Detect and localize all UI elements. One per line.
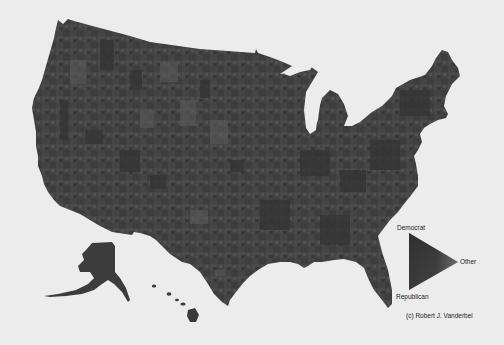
alaska-landmass	[44, 242, 130, 302]
legend-label-republican: Republican	[396, 294, 429, 301]
legend-triangle	[409, 233, 458, 290]
copyright-credit: (c) Robert J. Vanderbei	[406, 313, 473, 320]
hawaii-islands	[152, 284, 199, 322]
legend-label-other: Other	[460, 259, 476, 266]
election-map: Democrat Other Republican (c) Robert J. …	[0, 0, 504, 345]
legend-label-democrat: Democrat	[397, 225, 425, 232]
